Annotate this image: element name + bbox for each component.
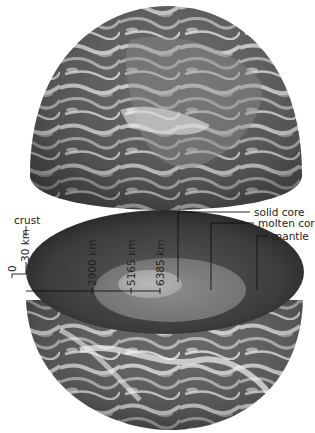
label-crust: crust — [14, 214, 40, 226]
earth-cross-section-diagram: 0 30 km 2900 km 5165 km 6385 km crust so… — [0, 0, 315, 433]
label-depth-6385km: 6385 km — [154, 240, 166, 286]
label-depth-2900km: 2900 km — [86, 240, 98, 286]
label-depth-0: 0 — [6, 265, 18, 272]
label-molten-core: molten core — [258, 217, 315, 229]
label-depth-5165km: 5165 km — [125, 240, 137, 286]
label-mantle: mantle — [272, 230, 309, 242]
label-depth-30km: 30 km — [19, 229, 31, 262]
top-hemisphere — [30, 6, 302, 210]
